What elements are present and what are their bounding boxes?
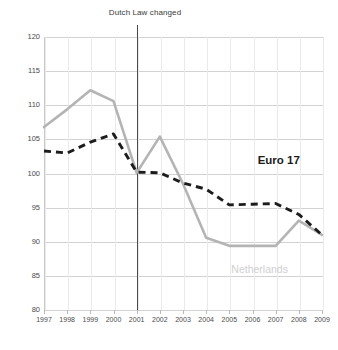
x-axis-tick — [276, 310, 277, 314]
x-axis-tick — [137, 310, 138, 314]
x-axis-tick — [67, 310, 68, 314]
series-label-netherlands: Netherlands — [231, 263, 288, 275]
x-axis-tick — [90, 310, 91, 314]
y-axis-tick-label: 85 — [18, 272, 40, 280]
y-axis-tick-label: 105 — [18, 135, 40, 143]
y-axis-tick-label: 80 — [18, 306, 40, 314]
y-axis-tick-label: 120 — [18, 33, 40, 41]
y-axis-tick-label: 90 — [18, 238, 40, 246]
y-axis-tick-label: 115 — [18, 67, 40, 75]
x-axis-tick — [299, 310, 300, 314]
series-line-netherlands — [44, 90, 322, 246]
series-label-euro17: Euro 17 — [258, 154, 300, 166]
y-axis-tick-label: 100 — [18, 170, 40, 178]
x-axis-tick — [160, 310, 161, 314]
x-axis-tick — [229, 310, 230, 314]
line-chart: Dutch Law changed Euro 17 Netherlands 80… — [0, 0, 338, 350]
x-axis-tick — [183, 310, 184, 314]
x-axis-tick — [253, 310, 254, 314]
y-axis-tick-label: 95 — [18, 204, 40, 212]
x-axis-tick — [322, 310, 323, 314]
x-axis-tick — [206, 310, 207, 314]
x-axis-tick — [44, 310, 45, 314]
x-axis-tick — [114, 310, 115, 314]
y-axis-tick-label: 110 — [18, 101, 40, 109]
x-axis-tick-label: 2009 — [308, 316, 336, 323]
series-layer — [0, 0, 338, 350]
